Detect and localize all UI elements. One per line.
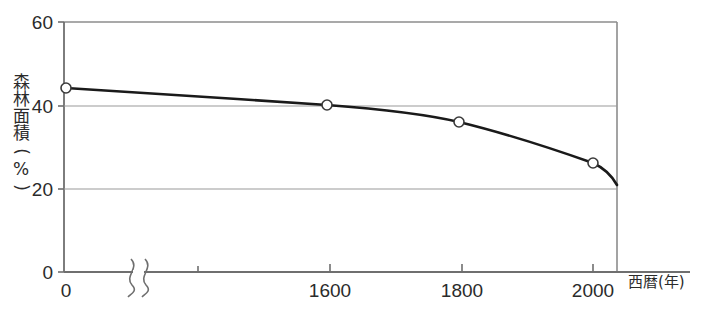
y-axis-title-char: ) xyxy=(12,184,29,191)
data-point-marker xyxy=(588,158,598,168)
y-tick-label-0: 0 xyxy=(42,262,53,283)
axis-break-squiggle-icon xyxy=(128,259,148,297)
x-axis-ticks xyxy=(198,264,593,272)
chart-canvas: 60 40 20 0 0 1600 1800 2000 xyxy=(0,0,703,317)
data-point-marker xyxy=(454,117,464,127)
x-axis-title: 西暦(年) xyxy=(628,270,685,291)
gridlines xyxy=(64,106,617,189)
data-point-marker xyxy=(322,100,332,110)
y-tick-label-20: 20 xyxy=(32,179,53,200)
y-tick-label-40: 40 xyxy=(32,96,53,117)
y-axis-title-char: 積 xyxy=(13,125,30,142)
data-series-forest-area xyxy=(66,88,617,185)
x-tick-label-0: 0 xyxy=(61,280,72,301)
y-axis-title-char: % xyxy=(13,161,29,178)
data-point-markers xyxy=(61,83,598,168)
y-axis-title: 森 林 面 積 ( % ) xyxy=(8,74,34,206)
x-tick-label-2000: 2000 xyxy=(572,280,614,301)
y-axis-title-char: ( xyxy=(12,148,29,155)
data-point-marker xyxy=(61,83,71,93)
x-tick-label-1600: 1600 xyxy=(309,280,351,301)
plot-frame xyxy=(64,22,690,272)
y-axis-tick-labels: 60 40 20 0 xyxy=(32,12,53,283)
x-axis-tick-labels: 0 1600 1800 2000 xyxy=(61,280,614,301)
forest-area-line-chart: 60 40 20 0 0 1600 1800 2000 xyxy=(0,0,703,317)
axis-break-mask xyxy=(133,270,144,274)
y-tick-label-60: 60 xyxy=(32,12,53,33)
x-tick-label-1800: 1800 xyxy=(441,280,483,301)
